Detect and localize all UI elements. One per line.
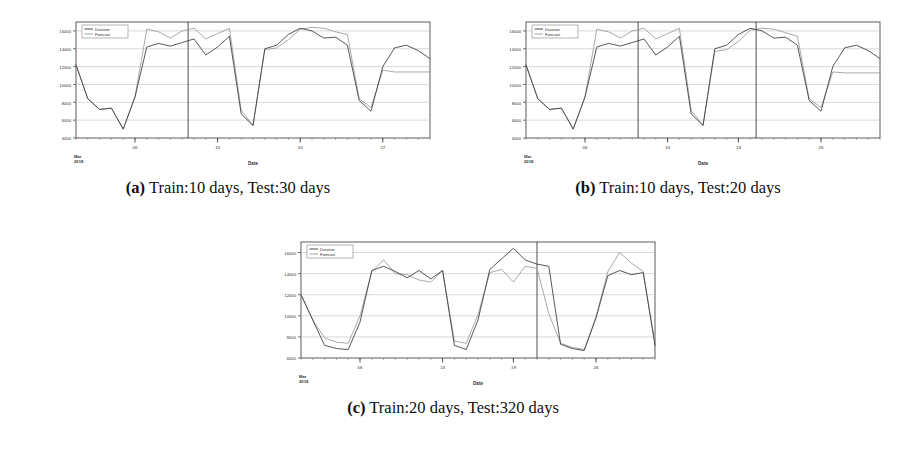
y-axis-tick-label: 14000 [509,47,521,52]
x-axis-tick-label: 13 [440,365,445,370]
caption-a-text: Train:10 days, Test:30 days [149,178,330,197]
y-axis-tick-label: 8000 [62,101,72,106]
x-axis-title: Date [473,381,483,386]
x-axis-tick-label: 19 [736,145,741,150]
legend-label-forecast: Forecast [95,32,111,37]
caption-c-letter: (c) [347,398,365,417]
y-axis-tick-label: 16000 [509,29,521,34]
chart-a: 4000600080001000012000140001600006132027… [18,8,438,176]
figure-panel-a: 4000600080001000012000140001600006132027… [18,8,438,218]
chart-c-svg: 600080001000012000140001600006131926Mar2… [243,228,663,396]
y-axis-tick-label: 8000 [512,101,522,106]
caption-c: (c) Train:20 days, Test:320 days [243,398,663,418]
y-axis-tick-label: 16000 [59,29,71,34]
legend-label-forecast: Forecast [320,252,336,257]
y-axis-tick-label: 4000 [512,136,522,141]
caption-b-text: Train:10 days, Test:20 days [599,178,780,197]
x-axis-tick-label: 19 [511,365,516,370]
y-axis-tick-label: 8000 [287,335,297,340]
caption-a: (a) Train:10 days, Test:30 days [18,178,438,198]
y-axis-tick-label: 10000 [509,83,521,88]
y-axis-tick-label: 4000 [62,136,72,141]
x-axis-tick-label: 13 [215,145,220,150]
figure-panel-c: 600080001000012000140001600006131926Mar2… [243,228,663,438]
legend-label-forecast: Forecast [545,32,561,37]
y-axis-tick-label: 14000 [284,272,296,277]
y-axis-tick-label: 12000 [284,293,296,298]
chart-c: 600080001000012000140001600006131926Mar2… [243,228,663,396]
figure-container: 4000600080001000012000140001600006132027… [0,0,909,452]
x-axis-tick-label: 06 [583,145,588,150]
x-axis-tick-label: 13 [665,145,670,150]
y-axis-tick-label: 16000 [284,251,296,256]
x-axis-tick-label: 06 [133,145,138,150]
y-axis-tick-label: 12000 [509,65,521,70]
x-axis-tick-label: 26 [819,145,824,150]
y-axis-tick-label: 6000 [512,118,522,123]
y-axis-tick-label: 6000 [287,356,297,361]
x-axis-origin-label: 2018 [299,379,309,384]
caption-a-letter: (a) [126,178,145,197]
figure-panel-b: 4000600080001000012000140001600006131926… [468,8,888,218]
y-axis-tick-label: 10000 [59,83,71,88]
x-axis-title: Date [698,161,708,166]
x-axis-tick-label: 26 [594,365,599,370]
caption-b-letter: (b) [575,178,595,197]
chart-b-svg: 4000600080001000012000140001600006131926… [468,8,888,176]
x-axis-tick-label: 27 [380,145,385,150]
y-axis-tick-label: 10000 [284,314,296,319]
caption-c-text: Train:20 days, Test:320 days [369,398,559,417]
chart-a-svg: 4000600080001000012000140001600006132027… [18,8,438,176]
caption-b: (b) Train:10 days, Test:20 days [468,178,888,198]
x-axis-title: Date [248,161,258,166]
x-axis-origin-label: 2018 [74,159,84,164]
y-axis-tick-label: 12000 [59,65,71,70]
x-axis-tick-label: 20 [298,145,303,150]
x-axis-origin-label: 2018 [524,159,534,164]
y-axis-tick-label: 14000 [59,47,71,52]
chart-b: 4000600080001000012000140001600006131926… [468,8,888,176]
y-axis-tick-label: 6000 [62,118,72,123]
x-axis-tick-label: 06 [358,365,363,370]
